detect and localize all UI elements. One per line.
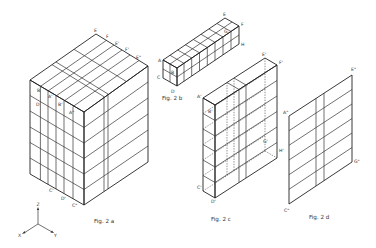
fig-2d-panel: A" E" G" C" Fig. 2 d [283,67,360,221]
label-G: G [224,29,228,34]
label-A-double-prime: A" [283,110,288,115]
fig-2a-main-block: E F E' F' E" B A' D B' A" C' D' C" Fig. … [30,28,148,225]
label-D-prime: D' [61,196,66,201]
label-C: C [157,75,160,80]
label-A-prime: A' [197,94,201,99]
label-E-double-prime: E" [351,67,356,72]
label-B: B [37,88,40,93]
z-arrow-icon [37,207,39,210]
label-F: F [106,34,109,39]
label-C-double-prime: C" [72,203,77,208]
label-C-prime: C' [49,188,53,193]
label-F-prime: F' [125,47,129,52]
axis-y-label: Y [53,233,57,238]
label-G-double-prime: G" [354,159,360,164]
isometric-block-diagram: E F E' F' E" B A' D B' A" C' D' C" Fig. … [0,0,376,248]
label-H-prime: H' [279,148,284,153]
label-C-double-prime: C" [284,208,289,213]
x-arrow-icon [22,231,26,234]
fig-2c-slab: E' F' A' B' G' H' C' D' Fig. 2 c [197,52,284,223]
label-D-prime: D' [211,199,216,204]
label-D: D [171,89,175,94]
axis-z-label: Z [37,202,40,207]
label-F-prime: F' [279,60,283,65]
fig-2d-caption: Fig. 2 d [309,214,330,221]
label-B-prime: B' [58,102,62,107]
axis-x-label: X [18,233,21,238]
label-F: F [241,22,244,27]
label-A-double-prime: A" [69,110,74,115]
label-E-prime: E' [262,52,266,57]
label-E: E [94,28,97,33]
fig-2c-caption: Fig. 2 c [211,216,231,223]
label-H: H [241,42,244,47]
fig-2a-caption: Fig. 2 a [94,218,114,225]
label-B: B [171,70,174,75]
fig-2b-caption: Fig. 2 b [162,95,183,102]
label-A: A [158,58,162,63]
fig-2b-bar: E F H G A B C D Fig. 2 b [157,12,244,102]
label-C-prime: C' [197,185,201,190]
label-E: E [223,12,226,17]
label-E-double-prime: E" [136,55,141,60]
xyz-axes: Z X Y [18,202,57,238]
label-A-prime: A' [48,94,52,99]
label-D: D [36,102,40,107]
label-E-prime: E' [115,41,119,46]
label-B-prime: B' [208,109,212,114]
label-G-prime: G' [263,139,268,144]
